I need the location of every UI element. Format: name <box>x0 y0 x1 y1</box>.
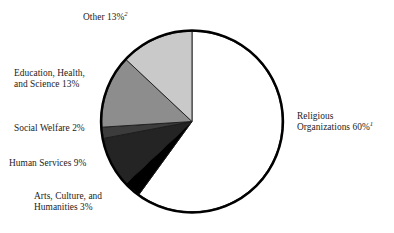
pie-chart-figure: Other 13%2 Education, Health,and Science… <box>0 0 394 233</box>
slice-label-social-welfare-text: Social Welfare 2% <box>14 123 85 133</box>
footnote-marker-1: 1 <box>370 120 373 127</box>
slice-label-religious-organizations: ReligiousOrganizations 60%1 <box>297 111 373 134</box>
slice-label-education-health-science: Education, Health,and Science 13% <box>14 68 85 91</box>
slice-label-other-text: Other 13% <box>83 12 124 22</box>
slice-label-education-line2: and Science 13% <box>14 79 85 90</box>
slice-label-arts-line2: Humanities 3% <box>34 202 102 213</box>
slice-label-social-welfare: Social Welfare 2% <box>14 123 85 134</box>
slice-label-education-line1: Education, Health, <box>14 68 85 79</box>
slice-label-arts-culture-humanities: Arts, Culture, andHumanities 3% <box>34 191 102 214</box>
footnote-marker-2: 2 <box>124 10 127 17</box>
slice-label-arts-line1: Arts, Culture, and <box>34 191 102 202</box>
pie-slices-group <box>102 31 282 211</box>
slice-label-religious-line2: Organizations 60% <box>297 122 370 132</box>
slice-label-human-services-text: Human Services 9% <box>9 158 86 168</box>
slice-label-other: Other 13%2 <box>83 12 128 23</box>
slice-label-religious-line1: Religious <box>297 111 373 122</box>
slice-label-human-services: Human Services 9% <box>9 158 86 169</box>
